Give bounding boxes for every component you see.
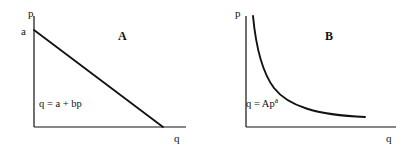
panel-a: p a A q = a + bp q (0, 0, 206, 154)
panel-b: p B q = Apa q (206, 0, 412, 154)
panel-a-plot (0, 0, 206, 154)
panel-b-equation-label: q = Apa (246, 99, 278, 110)
panel-a-intercept-label: a (21, 26, 26, 37)
panel-b-plot (206, 0, 412, 154)
panel-a-equation-base: q = a + bp (39, 98, 82, 109)
panel-b-region-label: B (325, 30, 333, 42)
panel-b-y-axis-label: p (235, 8, 241, 19)
panel-a-demand-line (34, 30, 163, 127)
panel-a-region-label: A (118, 30, 127, 42)
panel-b-equation-exponent: a (275, 96, 278, 105)
economics-demand-curves-figure: p a A q = a + bp q p B q = Apa q (0, 0, 412, 154)
panel-a-equation-label: q = a + bp (39, 99, 82, 110)
panel-b-x-axis-label: q (386, 133, 392, 144)
panel-a-x-axis-label: q (174, 133, 180, 144)
panel-a-y-axis-label: p (28, 8, 34, 19)
panel-b-equation-base: q = Ap (246, 98, 275, 109)
